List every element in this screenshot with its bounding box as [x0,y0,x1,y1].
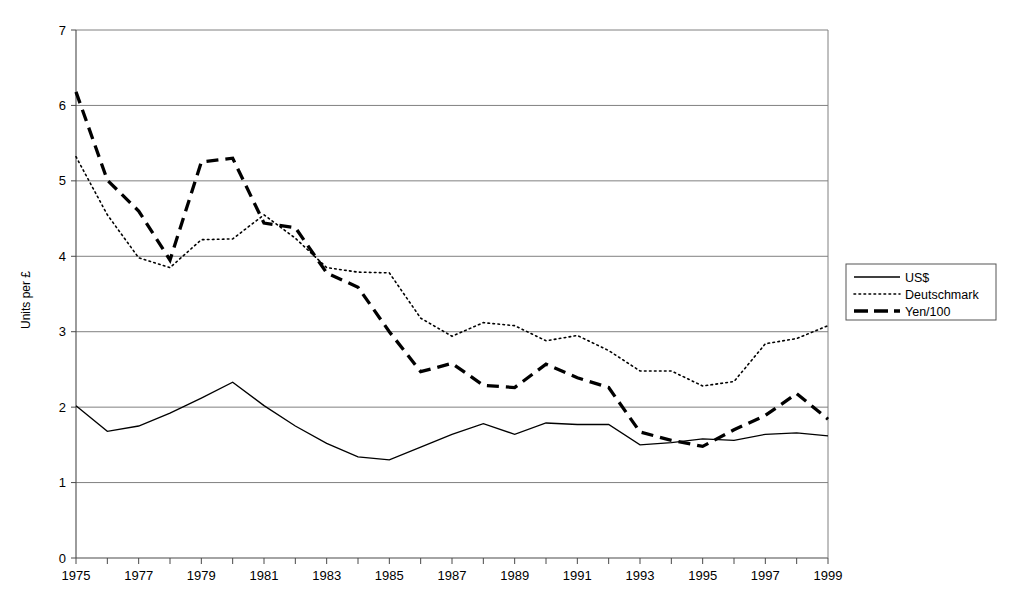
y-axis-label: Units per £ [19,271,33,329]
x-tick-label-1991: 1991 [563,568,592,583]
x-tick-label-1975: 1975 [62,568,91,583]
exchange-rate-chart: 1975197719791981198319851987198919911993… [0,0,1014,608]
y-axis-title-group: Units per £ [19,271,33,329]
y-tick-labels-group: 01234567 [59,23,66,566]
x-tick-label-1983: 1983 [312,568,341,583]
y-tick-label-0: 0 [59,551,66,566]
x-tick-label-1997: 1997 [751,568,780,583]
y-tick-label-3: 3 [59,324,66,339]
x-tick-label-1999: 1999 [814,568,843,583]
y-tick-label-1: 1 [59,475,66,490]
chart-legend: US$DeutschmarkYen/100 [846,264,996,320]
x-tick-label-1989: 1989 [500,568,529,583]
x-tick-label-1995: 1995 [688,568,717,583]
data-series-group [76,92,828,460]
x-tick-label-1993: 1993 [626,568,655,583]
x-tick-label-1987: 1987 [438,568,467,583]
chart-canvas: 1975197719791981198319851987198919911993… [0,0,1014,608]
series-line-yen-100 [76,92,828,447]
y-tick-label-2: 2 [59,400,66,415]
y-tick-marks-group [71,30,76,558]
y-tick-label-5: 5 [59,173,66,188]
y-tick-label-6: 6 [59,98,66,113]
legend-label-deutschmark: Deutschmark [905,288,979,302]
gridlines-group [76,30,828,483]
x-tick-label-1977: 1977 [124,568,153,583]
x-tick-label-1985: 1985 [375,568,404,583]
x-tick-labels-group: 1975197719791981198319851987198919911993… [62,568,843,583]
y-tick-label-7: 7 [59,23,66,38]
legend-label-yen-100: Yen/100 [905,305,950,319]
y-tick-label-4: 4 [59,249,66,264]
x-tick-marks-group [76,558,828,564]
x-tick-label-1981: 1981 [250,568,279,583]
series-line-deutschmark [76,157,828,386]
x-tick-label-1979: 1979 [187,568,216,583]
axes-group [76,30,828,558]
series-line-us [76,382,828,460]
legend-label-us: US$ [905,271,929,285]
